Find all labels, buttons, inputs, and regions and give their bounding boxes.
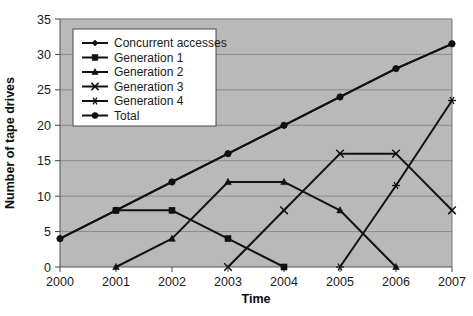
chart-container: 05101520253035 2000200120022003200420052… [0,0,473,316]
marker-square [92,55,98,61]
y-tick-label: 25 [37,83,51,97]
x-tick-label: 2002 [158,275,186,289]
marker-square [281,264,287,270]
legend-item-label: Total [114,109,139,123]
x-axis-title: Time [242,292,271,306]
line-chart: 05101520253035 2000200120022003200420052… [0,0,473,316]
legend-item-label: Concurrent accesses [114,36,227,50]
legend-item-label: Generation 4 [114,94,184,108]
x-tick-label: 2000 [46,275,74,289]
y-tick-label: 10 [37,190,51,204]
marker-circle [281,122,287,128]
y-tick-label: 0 [44,261,51,275]
marker-circle [393,65,399,71]
x-tick-label: 2001 [102,275,130,289]
marker-circle [57,235,63,241]
x-tick-label: 2006 [382,275,410,289]
y-tick-label: 15 [37,154,51,168]
y-tick-label: 20 [37,119,51,133]
marker-circle [449,41,455,47]
marker-circle [225,150,231,156]
marker-circle [92,112,98,118]
marker-circle [337,94,343,100]
x-tick-label: 2005 [326,275,354,289]
marker-square [169,207,175,213]
y-tick-label: 30 [37,48,51,62]
y-tick-label: 35 [37,13,51,27]
marker-circle [169,179,175,185]
marker-circle [113,207,119,213]
legend-item-label: Generation 3 [114,80,184,94]
x-tick-label: 2004 [270,275,298,289]
y-axis-title: Number of tape drives [3,77,17,209]
chart-legend: Concurrent accessesGeneration 1Generatio… [73,29,227,126]
legend-item-label: Generation 2 [114,65,184,79]
y-tick-label: 5 [44,225,51,239]
x-tick-label: 2007 [438,275,466,289]
legend-item-label: Generation 1 [114,51,184,65]
marker-square [225,236,231,242]
x-tick-label: 2003 [214,275,242,289]
